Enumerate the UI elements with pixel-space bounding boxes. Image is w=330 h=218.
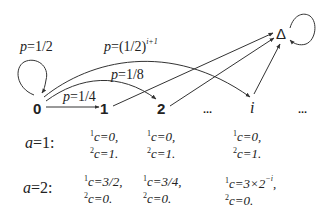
row-label-a1: a=1: bbox=[25, 135, 54, 151]
edge-i-to-delta bbox=[254, 44, 280, 94]
cell-a2-node0: 1c=3/2, 2c=0. bbox=[84, 172, 122, 206]
ellipsis-2: ... bbox=[298, 104, 307, 115]
node-0: 0 bbox=[33, 101, 41, 116]
cell-a1-node0: 1c=0, 2c=1. bbox=[90, 127, 118, 161]
cell-a1-node-i: 1c=0, 2c=1. bbox=[233, 127, 261, 161]
cell-a1-node1: 1c=0, 2c=1. bbox=[147, 127, 175, 161]
label-self-loop-0: p=1/2 bbox=[20, 40, 53, 54]
edge-2-to-delta bbox=[170, 38, 274, 106]
node-1: 1 bbox=[100, 101, 108, 116]
row-label-a2: a=2: bbox=[23, 180, 52, 196]
node-2: 2 bbox=[157, 101, 165, 116]
self-loop-delta-edge bbox=[290, 14, 315, 45]
markov-chain-diagram: p=1/2 p=(1/2)i+1 p=1/8 p=1/4 0 1 2 ... i… bbox=[0, 0, 330, 218]
label-edge-0-to-1: p=1/4 bbox=[63, 90, 96, 104]
node-delta-absorbing: Δ bbox=[276, 26, 286, 41]
cell-a2-node-i: 1c=3×2−i, 2c=0. bbox=[225, 172, 276, 208]
label-edge-0-to-i: p=(1/2)i+1 bbox=[104, 38, 158, 54]
ellipsis-1: ... bbox=[203, 104, 212, 115]
label-edge-0-to-2: p=1/8 bbox=[111, 68, 144, 82]
self-loop-0-edge bbox=[18, 60, 47, 95]
cell-a2-node1: 1c=3/4, 2c=0. bbox=[143, 172, 181, 206]
node-i: i bbox=[250, 100, 254, 116]
